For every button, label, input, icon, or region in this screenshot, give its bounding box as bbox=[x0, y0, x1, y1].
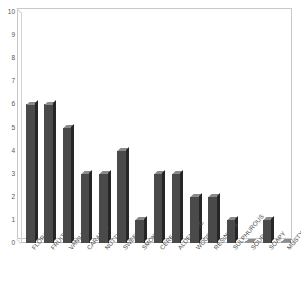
y-tick-label: 9 bbox=[11, 32, 15, 39]
x-label-slot: MUSTY bbox=[278, 245, 296, 303]
x-label-slot: VANILLA bbox=[59, 245, 77, 303]
x-label-slot: RESINOUS bbox=[205, 245, 223, 303]
plot-area bbox=[21, 12, 296, 243]
y-tick-label: 8 bbox=[11, 55, 15, 62]
bar-slot bbox=[278, 12, 296, 243]
x-label-slot: SULPHUROUS bbox=[223, 245, 241, 303]
x-label-slot: SMOKY bbox=[132, 245, 150, 303]
bar-chart: 012345678910 FLORALFRUITYVANILLACARAMELN… bbox=[0, 0, 301, 305]
y-tick-label: 4 bbox=[11, 147, 15, 154]
y-tick-label: 6 bbox=[11, 101, 15, 108]
x-label-slot: NUTTY bbox=[96, 245, 114, 303]
x-label-slot: SOUR bbox=[241, 245, 259, 303]
y-tick-label: 3 bbox=[11, 170, 15, 177]
bar bbox=[26, 104, 35, 243]
x-label-slot: SWEET bbox=[114, 245, 132, 303]
y-tick-label: 7 bbox=[11, 78, 15, 85]
bar-slot bbox=[114, 12, 132, 243]
x-label-slot: FRUITY bbox=[41, 245, 59, 303]
y-axis: 012345678910 bbox=[0, 8, 21, 240]
bar-slot bbox=[241, 12, 259, 243]
y-tick-label: 2 bbox=[11, 194, 15, 201]
bar-slot bbox=[59, 12, 77, 243]
bar-slot bbox=[41, 12, 59, 243]
bar-slot bbox=[223, 12, 241, 243]
x-label-slot: FLORAL bbox=[23, 245, 41, 303]
x-axis-labels: FLORALFRUITYVANILLACARAMELNUTTYSWEETSMOK… bbox=[21, 245, 296, 303]
bar-slot bbox=[132, 12, 150, 243]
bar bbox=[63, 128, 72, 244]
bar-slot bbox=[260, 12, 278, 243]
bar-slot bbox=[78, 12, 96, 243]
x-label-slot: CARAMEL bbox=[78, 245, 96, 303]
bar bbox=[117, 151, 126, 243]
x-label-slot: CEREAL bbox=[150, 245, 168, 303]
bar-slot bbox=[169, 12, 187, 243]
y-tick-label: 0 bbox=[11, 240, 15, 247]
y-tick-label: 10 bbox=[8, 9, 15, 16]
x-label-slot: WOODY bbox=[187, 245, 205, 303]
bar-slot bbox=[187, 12, 205, 243]
bar-slot bbox=[205, 12, 223, 243]
bar bbox=[44, 104, 53, 243]
bar-series bbox=[21, 12, 296, 243]
x-label-slot: ALDEHYDIC bbox=[169, 245, 187, 303]
bar-slot bbox=[23, 12, 41, 243]
bar-slot bbox=[150, 12, 168, 243]
x-label-slot: SOAPY bbox=[260, 245, 278, 303]
bar-slot bbox=[96, 12, 114, 243]
y-tick-label: 1 bbox=[11, 217, 15, 224]
y-tick-label: 5 bbox=[11, 124, 15, 131]
